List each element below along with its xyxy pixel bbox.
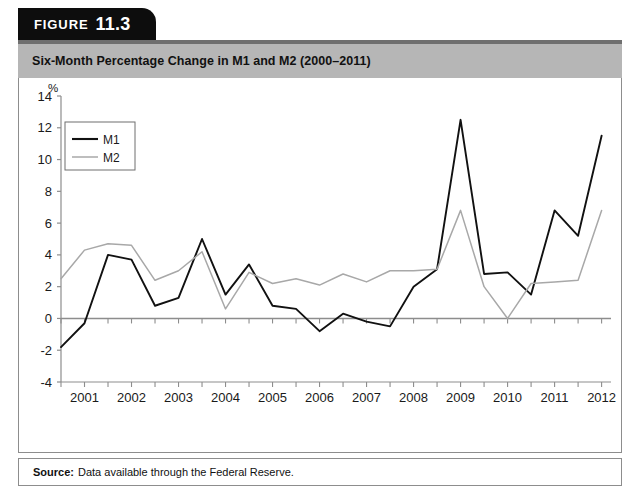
figure-tab-number: 11.3 [96,14,131,35]
figure-title: Six-Month Percentage Change in M1 and M2… [32,54,371,68]
chart-legend: M1M2 [65,122,135,170]
y-tick-label: -4 [40,375,52,390]
y-tick-label: 6 [45,216,52,231]
x-tick-label: 2008 [399,390,428,405]
legend-label-m1: M1 [103,133,120,147]
x-tick-label: 2011 [541,390,569,405]
chart-panel: 14121086420-2-4 200120022003200420052006… [18,78,622,453]
figure-title-bar: Six-Month Percentage Change in M1 and M2… [18,40,622,78]
x-tick-label: 2010 [493,390,522,405]
y-axis-tick-labels: 14121086420-2-4 [38,89,52,390]
chart-axes [61,96,611,382]
x-tick-label: 2003 [164,390,193,405]
x-tick-label: 2009 [446,390,475,405]
figure-tab-word: FIGURE [34,17,89,32]
x-tick-label: 2007 [352,390,381,405]
chart-series [61,120,602,347]
x-tick-label: 2001 [70,390,99,405]
x-tick-label: 2002 [117,390,146,405]
x-tick-label: 2004 [211,390,240,405]
legend-box [65,122,135,170]
y-tick-label: 2 [45,279,52,294]
x-tick-label: 2012 [587,390,616,405]
y-tick-label: 0 [45,311,52,326]
x-tick-label: 2005 [258,390,287,405]
line-chart: 14121086420-2-4 200120022003200420052006… [19,78,621,451]
y-tick-label: 4 [45,247,52,262]
y-tick-label: -2 [40,343,52,358]
source-label: Source: [33,466,74,478]
figure-tab: FIGURE 11.3 [18,8,156,40]
y-tick-label: 12 [38,120,52,135]
figure-container: FIGURE 11.3 Six-Month Percentage Change … [0,0,640,495]
series-line-m1 [61,120,602,347]
x-tick-label: 2006 [305,390,334,405]
chart-ticks [57,96,602,387]
series-line-m2 [61,210,602,318]
y-tick-label: 8 [45,184,52,199]
source-text: Data available through the Federal Reser… [78,466,294,478]
x-axis-tick-labels: 2001200220032004200520062007200820092010… [70,390,616,405]
source-bar: Source: Data available through the Feder… [18,458,622,486]
legend-label-m2: M2 [103,151,120,165]
y-tick-label: 10 [38,152,52,167]
y-axis-unit-label: % [48,82,58,94]
